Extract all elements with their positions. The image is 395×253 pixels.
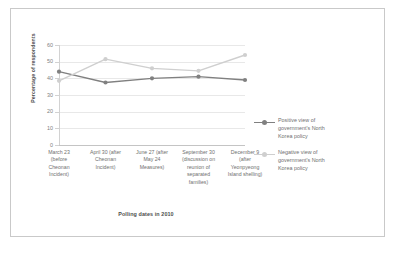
data-point xyxy=(103,80,107,84)
y-axis-tick-label: 60 xyxy=(31,42,53,48)
x-axis-category-label: September 30(discussion onreunion ofsepa… xyxy=(176,149,222,186)
series-lines xyxy=(59,45,245,146)
x-axis-category-label: March 23(beforeCheonanIncident) xyxy=(36,149,82,179)
y-axis-tick-label: 0 xyxy=(31,142,53,148)
y-axis-tick-label: 30 xyxy=(31,92,53,98)
legend-key-icon xyxy=(254,152,275,157)
legend-label: Positive view ofgovernment's NorthKorea … xyxy=(278,117,384,140)
data-point xyxy=(150,76,154,80)
chart-legend: Positive view ofgovernment's NorthKorea … xyxy=(254,117,384,182)
plot-area xyxy=(59,45,245,145)
x-axis-title: Polling dates in 2010 xyxy=(31,211,261,217)
chart-frame: Percentage of respondents 0102030405060 … xyxy=(10,8,385,237)
y-axis-tick-label: 20 xyxy=(31,108,53,114)
y-axis-tick-label: 10 xyxy=(31,125,53,131)
data-point xyxy=(150,66,154,70)
data-point xyxy=(243,78,247,82)
data-point xyxy=(57,79,61,83)
legend-label: Negative view ofgovernment's NorthKorea … xyxy=(278,149,384,172)
legend-entry[interactable]: Negative view ofgovernment's NorthKorea … xyxy=(254,149,384,172)
data-point xyxy=(196,69,200,73)
data-point xyxy=(196,75,200,79)
data-point xyxy=(57,70,61,74)
y-axis-tick-label: 40 xyxy=(31,75,53,81)
chart-figure: Percentage of respondents 0102030405060 … xyxy=(0,0,395,253)
y-axis-title: Percentage of respondents xyxy=(30,13,36,123)
data-point xyxy=(103,57,107,61)
data-point xyxy=(243,53,247,57)
x-axis-category-label: April 30 (afterCheonanIncident) xyxy=(83,149,129,171)
y-axis-tick-label: 50 xyxy=(31,58,53,64)
x-axis-category-label: June 27 (afterMay 24Measures) xyxy=(129,149,175,171)
legend-key-icon xyxy=(254,120,275,125)
legend-entry[interactable]: Positive view ofgovernment's NorthKorea … xyxy=(254,117,384,140)
x-axis-category-labels: March 23(beforeCheonanIncident)April 30 … xyxy=(59,149,245,207)
